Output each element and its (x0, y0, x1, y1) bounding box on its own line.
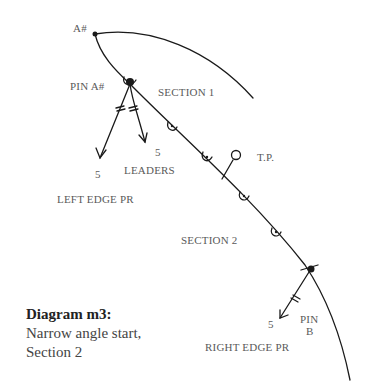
leaders-leader (130, 84, 145, 142)
label-leaders: LEADERS (124, 164, 175, 176)
point-a-dot (93, 32, 98, 37)
pin-a-dot (126, 78, 134, 86)
caption-line-1: Narrow angle start, (26, 324, 141, 343)
label-leaders-count: 5 (155, 146, 161, 158)
left-arrowhead (96, 148, 106, 158)
tp-circle (232, 151, 241, 160)
label-left-edge: LEFT EDGE PR (57, 193, 134, 205)
label-pin-a: PIN A# (70, 80, 105, 92)
right-edge-leader (280, 272, 309, 318)
label-section-2: SECTION 2 (181, 234, 238, 246)
caption-title: Diagram m3: (26, 305, 141, 324)
caption-line-2: Section 2 (26, 343, 141, 362)
label-right-edge: RIGHT EDGE PR (205, 341, 289, 353)
tp-post (222, 160, 233, 179)
label-pin-b-2: B (306, 325, 314, 337)
label-pin-b-1: PIN (300, 313, 318, 325)
diagram-caption: Diagram m3: Narrow angle start, Section … (26, 305, 141, 362)
pin-b-dot (308, 266, 315, 273)
left-edge-leader (100, 84, 130, 158)
label-tp: T.P. (257, 151, 274, 163)
label-left-count: 5 (95, 168, 101, 180)
label-section-1: SECTION 1 (158, 86, 215, 98)
label-point-a: A# (73, 22, 87, 34)
label-right-count: 5 (268, 318, 274, 330)
